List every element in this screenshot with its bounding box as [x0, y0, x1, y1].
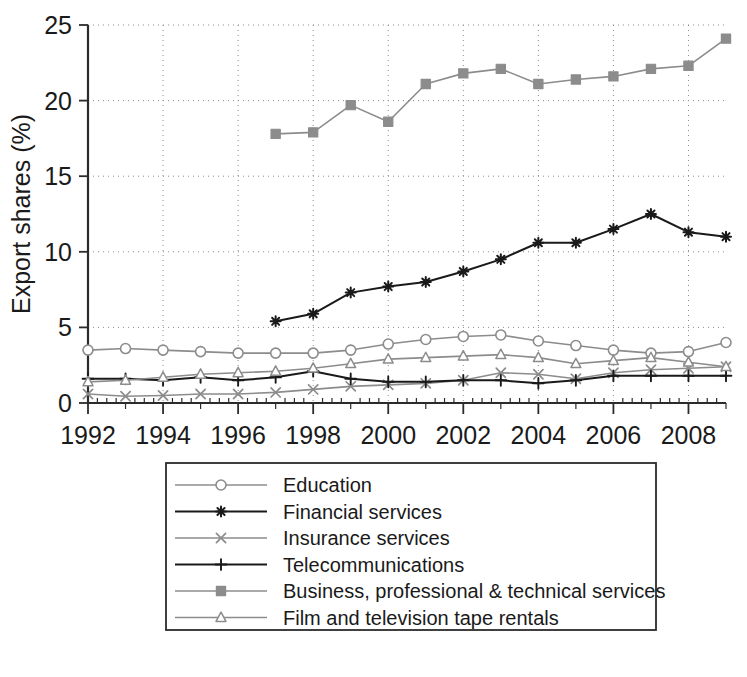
- data-point-filled-square: [309, 128, 318, 137]
- data-point-asterisk: [496, 254, 506, 264]
- data-point-open-circle: [533, 336, 543, 346]
- data-point-open-circle: [121, 344, 131, 354]
- data-point-plus: [721, 370, 732, 381]
- x-tick-label: 2008: [661, 421, 717, 449]
- axis-lines: [88, 25, 726, 403]
- series-6: [83, 349, 731, 386]
- chart-legend: EducationFinancial servicesInsurance ser…: [166, 463, 665, 630]
- axes: [88, 25, 726, 403]
- series-line: [88, 371, 726, 383]
- data-point-open-circle: [571, 341, 581, 351]
- y-tick-label: 15: [44, 162, 72, 190]
- data-point-filled-square: [534, 79, 543, 88]
- y-axis-label: Export shares (%): [7, 114, 35, 314]
- y-axis-tick-labels: 0510152025: [44, 11, 72, 417]
- data-point-open-circle: [608, 345, 618, 355]
- data-point-open-circle: [308, 348, 318, 358]
- legend-label: Insurance services: [283, 527, 450, 549]
- tick-marks: [79, 25, 726, 414]
- data-point-open-circle: [346, 345, 356, 355]
- x-tick-label: 1994: [135, 421, 191, 449]
- series-4: [83, 366, 732, 389]
- series-5: [271, 34, 731, 138]
- x-axis-tick-labels: 199219941996199820002002200420062008: [60, 421, 716, 449]
- data-point-filled-square: [571, 75, 580, 84]
- data-point-filled-square: [346, 101, 355, 110]
- data-point-asterisk: [533, 238, 543, 248]
- legend-label: Education: [283, 474, 372, 496]
- data-point-asterisk: [216, 507, 226, 517]
- series-line: [276, 39, 726, 134]
- data-point-plus: [533, 378, 544, 389]
- data-point-filled-square: [609, 72, 618, 81]
- line-chart: 0510152025 19921994199619982000200220042…: [0, 0, 747, 677]
- series-1: [83, 330, 731, 358]
- data-point-asterisk: [271, 316, 281, 326]
- data-point-asterisk: [421, 277, 431, 287]
- data-point-filled-square: [646, 64, 655, 73]
- data-point-plus: [420, 376, 431, 387]
- data-point-asterisk: [646, 209, 656, 219]
- x-tick-label: 2004: [511, 421, 567, 449]
- data-point-open-circle: [216, 480, 226, 490]
- y-tick-label: 20: [44, 87, 72, 115]
- y-tick-label: 0: [58, 389, 72, 417]
- data-point-open-circle: [383, 339, 393, 349]
- data-point-open-circle: [721, 338, 731, 348]
- series-2: [271, 209, 731, 326]
- x-tick-label: 2000: [360, 421, 416, 449]
- data-point-open-circle: [271, 348, 281, 358]
- data-point-plus: [570, 375, 581, 386]
- data-point-open-circle: [196, 347, 206, 357]
- series-line: [276, 214, 726, 321]
- series-line: [88, 335, 726, 353]
- chart-figure: 0510152025 19921994199619982000200220042…: [0, 0, 747, 677]
- data-point-asterisk: [721, 232, 731, 242]
- data-point-open-triangle: [496, 349, 506, 358]
- legend-label: Financial services: [283, 501, 442, 523]
- data-point-open-circle: [421, 334, 431, 344]
- data-point-open-circle: [83, 345, 93, 355]
- data-point-asterisk: [383, 282, 393, 292]
- data-point-filled-square: [421, 79, 430, 88]
- data-point-filled-square: [459, 69, 468, 78]
- legend-label: Film and television tape rentals: [283, 607, 559, 629]
- data-point-open-circle: [458, 331, 468, 341]
- data-point-asterisk: [571, 238, 581, 248]
- y-tick-label: 25: [44, 11, 72, 39]
- y-tick-label: 10: [44, 238, 72, 266]
- data-point-filled-square: [496, 64, 505, 73]
- data-point-asterisk: [308, 309, 318, 319]
- data-point-open-circle: [683, 347, 693, 357]
- data-point-open-circle: [158, 345, 168, 355]
- data-point-asterisk: [683, 227, 693, 237]
- data-point-asterisk: [608, 224, 618, 234]
- data-point-asterisk: [346, 288, 356, 298]
- x-tick-label: 1998: [285, 421, 341, 449]
- data-point-open-circle: [496, 330, 506, 340]
- gridlines: [88, 25, 726, 403]
- data-point-filled-square: [384, 117, 393, 126]
- data-point-filled-square: [216, 586, 225, 595]
- legend-label: Business, professional & technical servi…: [283, 580, 665, 602]
- data-point-filled-square: [684, 61, 693, 70]
- x-tick-label: 1992: [60, 421, 116, 449]
- legend-label: Telecommunications: [283, 554, 464, 576]
- data-point-filled-square: [271, 129, 280, 138]
- data-point-filled-square: [721, 34, 730, 43]
- x-tick-label: 2002: [435, 421, 491, 449]
- y-tick-label: 5: [58, 313, 72, 341]
- x-tick-label: 1996: [210, 421, 266, 449]
- y-axis-title: Export shares (%): [7, 114, 35, 314]
- data-series-layer: [83, 34, 732, 401]
- data-point-plus: [646, 370, 657, 381]
- data-point-asterisk: [458, 266, 468, 276]
- data-point-open-circle: [233, 348, 243, 358]
- x-tick-label: 2006: [586, 421, 642, 449]
